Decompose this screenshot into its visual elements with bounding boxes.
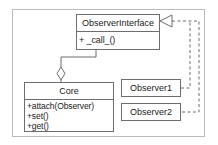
- realization-connectors: [160, 15, 199, 112]
- member-set: +set(): [27, 111, 113, 121]
- class-box-core[interactable]: Core +attach(Observer) +set() +get(): [24, 82, 114, 132]
- realization-trunk-line: [172, 21, 199, 112]
- aggregation-connector: [57, 50, 96, 82]
- class-box-observer1[interactable]: Observer1: [121, 79, 181, 97]
- member-call: + _call_(): [79, 34, 159, 46]
- diagram-canvas: ObserverInterface + _call_() Core +attac…: [0, 0, 218, 145]
- aggregation-line: [61, 50, 96, 67]
- member-get: +get(): [27, 121, 113, 131]
- hollow-triangle-marker: [160, 15, 172, 27]
- class-members-core: +attach(Observer) +set() +get(): [25, 99, 113, 132]
- class-name-observer2: Observer2: [122, 104, 180, 121]
- class-name-observer1: Observer1: [122, 80, 180, 97]
- class-members-observer-interface: + _call_(): [77, 31, 159, 47]
- class-name-core: Core: [25, 83, 113, 99]
- class-box-observer-interface[interactable]: ObserverInterface + _call_(): [76, 14, 160, 50]
- realization-observer1-branch: [181, 21, 190, 88]
- class-box-observer2[interactable]: Observer2: [121, 103, 181, 121]
- member-attach: +attach(Observer): [27, 101, 113, 111]
- hollow-diamond-marker: [57, 67, 65, 80]
- class-name-observer-interface: ObserverInterface: [77, 15, 159, 31]
